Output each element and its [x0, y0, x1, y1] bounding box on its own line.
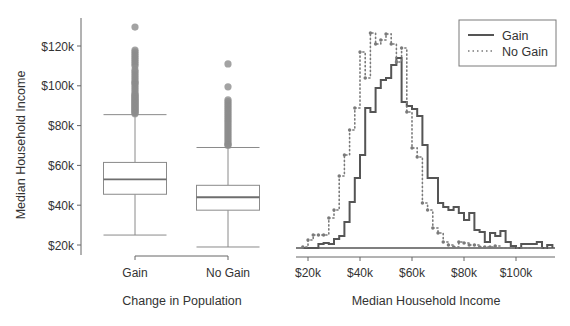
- nogain-marker: [343, 153, 346, 156]
- outlier-point: [131, 46, 138, 53]
- legend-gain-label: Gain: [502, 29, 528, 43]
- nogain-marker: [312, 233, 315, 236]
- nogain-marker: [338, 174, 341, 177]
- histogram-panel: $20k$40k$60k$80k$100k Median Household I…: [295, 20, 556, 308]
- nogain-marker: [374, 42, 377, 45]
- nogain-marker: [426, 208, 429, 211]
- nogain-marker: [457, 240, 460, 243]
- nogain-marker: [436, 231, 439, 234]
- nogain-marker: [353, 106, 356, 109]
- nogain-marker: [416, 155, 419, 158]
- boxplot-panel: $20k$40k$60k$80k$100k$120k GainNo Gain M…: [14, 18, 260, 308]
- nogain-marker: [405, 110, 408, 113]
- nogain-marker: [390, 42, 393, 45]
- nogain-marker: [348, 128, 351, 131]
- nogain-marker: [301, 245, 304, 248]
- y-tick-label: $80k: [48, 119, 75, 133]
- nogain-marker: [400, 46, 403, 49]
- outlier-point: [224, 83, 231, 90]
- nogain-marker: [410, 146, 413, 149]
- outlier-point: [224, 60, 231, 67]
- nogain-marker: [395, 60, 398, 63]
- nogain-marker: [379, 38, 382, 41]
- nogain-marker: [431, 226, 434, 229]
- nogain-marker: [483, 245, 486, 248]
- nogain-marker: [384, 32, 387, 35]
- nogain-marker: [478, 245, 481, 248]
- y-tick-label: $100k: [41, 79, 75, 93]
- legend-nogain-label: No Gain: [502, 45, 548, 59]
- legend: Gain No Gain: [459, 20, 556, 66]
- nogain-marker: [306, 238, 309, 241]
- x-tick-label: No Gain: [206, 266, 250, 280]
- nogain-marker: [317, 233, 320, 236]
- x-tick-label: $40k: [347, 266, 374, 280]
- x-tick-label: $100k: [500, 266, 534, 280]
- nogain-marker: [322, 233, 325, 236]
- nogain-marker: [447, 243, 450, 246]
- nogain-marker: [473, 243, 476, 246]
- nogain-marker: [358, 50, 361, 53]
- chart-canvas: $20k$40k$60k$80k$100k$120k GainNo Gain M…: [0, 0, 570, 326]
- x-tick-label: $20k: [295, 266, 322, 280]
- nogain-marker: [488, 245, 491, 248]
- outlier-point: [224, 96, 231, 103]
- box-no-gain: [197, 60, 260, 247]
- y-tick-label: $40k: [48, 199, 75, 213]
- y-tick-label: $20k: [48, 239, 75, 253]
- nogain-marker: [442, 240, 445, 243]
- histogram-gain-line: [303, 58, 553, 248]
- x-tick-label: Gain: [122, 266, 147, 280]
- boxplot-x-axis: GainNo Gain: [122, 256, 250, 280]
- boxplot-x-axis-title: Change in Population: [122, 294, 242, 308]
- histogram-x-axis-title: Median Household Income: [352, 294, 501, 308]
- nogain-marker: [364, 76, 367, 79]
- boxplot-y-axis-title: Median Household Income: [14, 71, 28, 220]
- y-tick-label: $120k: [41, 40, 75, 54]
- box-gain: [104, 23, 167, 235]
- boxplot-y-axis: $20k$40k$60k$80k$100k$120k: [41, 18, 81, 255]
- nogain-marker: [369, 31, 372, 34]
- y-tick-label: $60k: [48, 159, 75, 173]
- figure: $20k$40k$60k$80k$100k$120k GainNo Gain M…: [0, 0, 570, 326]
- nogain-marker: [494, 244, 497, 247]
- x-tick-label: $80k: [451, 266, 478, 280]
- nogain-marker: [462, 241, 465, 244]
- nogain-marker: [468, 243, 471, 246]
- histogram-x-axis: $20k$40k$60k$80k$100k: [295, 257, 555, 280]
- legend-frame: [459, 20, 556, 66]
- outlier-point: [131, 23, 138, 30]
- nogain-marker: [332, 208, 335, 211]
- x-tick-label: $60k: [399, 266, 426, 280]
- nogain-marker: [421, 201, 424, 204]
- nogain-marker: [452, 245, 455, 248]
- boxplot-boxes: [104, 23, 260, 246]
- nogain-marker: [327, 216, 330, 219]
